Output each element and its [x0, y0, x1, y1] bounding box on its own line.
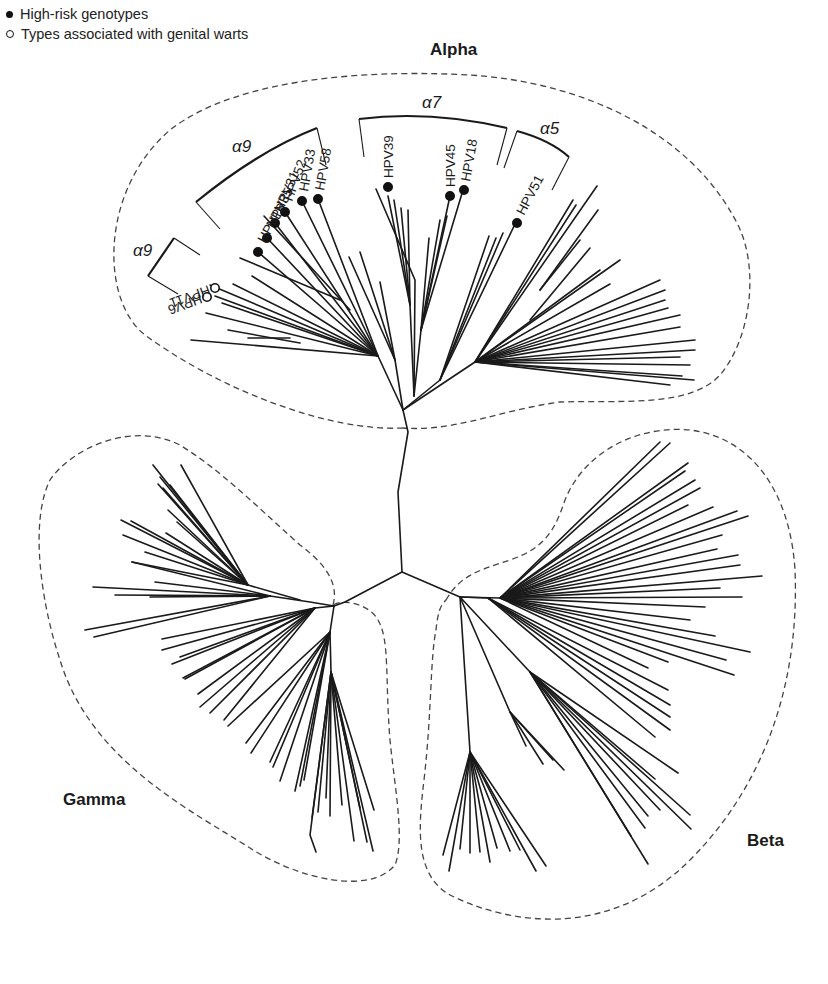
- beta-branch: [530, 672, 645, 828]
- gamma-branch: [132, 562, 270, 596]
- alpha-branch: [421, 216, 447, 330]
- gamma-branch: [330, 672, 331, 816]
- tip-label-hpv51: HPV51: [513, 173, 546, 218]
- beta-branch: [443, 597, 470, 855]
- alpha5-bracket-right-tick: [552, 157, 569, 190]
- high-risk-marker-hpv45: [446, 192, 454, 200]
- gamma-branch: [155, 582, 270, 596]
- alpha9b-bracket-bottom-tick: [148, 276, 178, 294]
- beta-branch: [460, 597, 564, 770]
- beta-branch: [500, 549, 717, 598]
- beta-branch: [500, 597, 742, 598]
- beta-branch: [470, 752, 536, 871]
- beta-branch: [530, 672, 660, 810]
- alpha5-label: α5: [540, 119, 560, 138]
- alpha5-bracket-left-tick: [504, 131, 517, 168]
- gamma-branch: [185, 608, 315, 679]
- beta-branch: [500, 598, 750, 652]
- warts-marker-hpv11: [211, 284, 219, 292]
- gamma-branch: [150, 596, 270, 597]
- beta-clade-boundary: [420, 429, 795, 919]
- beta-branch: [500, 516, 748, 598]
- alpha-branch: [240, 258, 340, 300]
- species-brackets: [148, 116, 569, 294]
- tip-label-hpv45: HPV45: [443, 144, 458, 187]
- high-risk-marker-hpv18: [460, 186, 468, 194]
- alpha9-label: α9: [232, 137, 252, 156]
- species-labels: α9 α9 α7 α5: [133, 93, 560, 260]
- alpha-branch: [475, 260, 620, 362]
- gamma-branch: [200, 608, 315, 707]
- phylogenetic-tree: α9 α9 α7 α5 HPV16 HPV35 HPV31 HPV52 HPV3…: [0, 0, 828, 984]
- beta-branch: [500, 443, 670, 598]
- clade-boundaries: [39, 74, 795, 920]
- high-risk-marker-hpv39: [384, 183, 392, 191]
- gamma-branch: [162, 608, 315, 650]
- alpha-branch: [403, 222, 516, 410]
- alpha-branch: [228, 330, 300, 343]
- trunk-gamma-branch: [334, 572, 402, 606]
- beta-branch: [449, 752, 470, 871]
- beta-branch: [510, 712, 553, 760]
- alpha-branch: [540, 240, 580, 290]
- high-risk-marker-hpv16: [254, 248, 262, 256]
- beta-branch: [500, 471, 685, 598]
- alpha-branch: [403, 186, 597, 410]
- gamma-branch: [153, 465, 248, 585]
- beta-branch: [500, 511, 737, 598]
- gamma-branch: [172, 608, 315, 664]
- alpha-branch: [475, 290, 665, 362]
- beta-branch: [488, 598, 670, 730]
- alpha7-bracket-left-tick: [359, 119, 364, 157]
- gamma-branch: [94, 596, 270, 637]
- alpha7-bracket: [359, 116, 507, 128]
- clade-label-alpha: Alpha: [430, 40, 477, 60]
- clade-label-gamma: Gamma: [63, 790, 125, 810]
- beta-branch: [510, 712, 543, 764]
- high-risk-marker-hpv33: [298, 197, 306, 205]
- alpha7-bracket-right-tick: [497, 128, 507, 165]
- high-risk-marker-hpv51: [513, 219, 521, 227]
- trunk-alpha-branch: [398, 410, 408, 572]
- alpha-clade-boundary: [114, 74, 750, 429]
- beta-branch: [530, 672, 691, 829]
- beta-branch: [500, 488, 700, 598]
- alpha-branch: [360, 252, 395, 360]
- alpha-branch: [275, 223, 378, 356]
- alpha9-bracket-left-tick: [196, 202, 220, 229]
- alpha9b-bracket-top-tick: [174, 238, 200, 255]
- alpha-branch: [264, 216, 350, 310]
- beta-branch: [510, 712, 526, 746]
- alpha9b-label: α9: [133, 241, 153, 260]
- beta-branch: [530, 672, 648, 816]
- alpha7-label: α7: [422, 93, 442, 112]
- tree-branches: [85, 186, 762, 871]
- clade-label-beta: Beta: [747, 831, 784, 851]
- tip-label-hpv39: HPV39: [381, 135, 396, 178]
- beta-branch: [530, 672, 690, 815]
- high-risk-marker-hpv58: [314, 195, 322, 203]
- trunk-beta-branch: [402, 572, 460, 597]
- beta-branch: [470, 752, 510, 851]
- tip-label-hpv18: HPV18: [458, 138, 480, 183]
- beta-branch: [470, 752, 546, 866]
